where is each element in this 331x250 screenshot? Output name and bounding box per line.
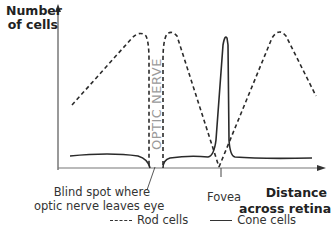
solid-line-icon (210, 220, 232, 221)
dashed-line-icon (110, 220, 132, 221)
x-axis-label-line1: Distance (239, 185, 327, 201)
blind-spot-label: Blind spot where optic nerve leaves eye (34, 185, 150, 213)
legend-cone-label: Cone cells (237, 213, 296, 227)
optic-nerve-band: OPTIC NERVE (149, 58, 164, 150)
legend-item-cone: Cone cells (210, 213, 296, 227)
legend: Rod cells Cone cells (110, 213, 296, 227)
rod-cells-curve (72, 32, 316, 167)
y-axis-label: Number of cells (6, 4, 58, 32)
optic-nerve-label: OPTIC NERVE (149, 58, 164, 150)
legend-item-rod: Rod cells (110, 213, 188, 227)
y-axis-label-line1: Number (6, 4, 58, 18)
fovea-label: Fovea (207, 190, 241, 204)
y-axis-label-line2: of cells (6, 18, 58, 32)
legend-rod-label: Rod cells (137, 213, 188, 227)
x-axis-arrow-icon (317, 165, 326, 171)
cone-cells-curve (70, 37, 312, 168)
blind-spot-label-line1: Blind spot where (34, 185, 150, 199)
x-axis (58, 165, 326, 171)
blind-spot-label-line2: optic nerve leaves eye (34, 199, 150, 213)
